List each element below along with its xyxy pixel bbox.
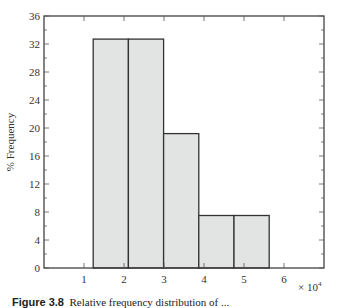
histogram-bar	[164, 134, 199, 268]
y-axis-label: % Frequency	[4, 112, 16, 171]
y-tick-label: 4	[35, 234, 41, 246]
x-tick-label: 6	[281, 273, 287, 285]
y-tick-label: 36	[29, 10, 41, 22]
y-tick-label: 20	[29, 122, 41, 134]
y-tick-label: 28	[29, 66, 41, 78]
histogram-chart: 04812162024283236123456% Frequency	[0, 0, 344, 308]
histogram-bar	[199, 216, 234, 269]
y-tick-label: 12	[29, 178, 40, 190]
y-tick-label: 32	[29, 38, 40, 50]
x-tick-label: 1	[81, 273, 87, 285]
x-tick-label: 4	[201, 273, 207, 285]
histogram-bar	[234, 216, 269, 269]
histogram-bar	[93, 39, 128, 268]
x-axis-multiplier: × 104	[298, 280, 321, 293]
y-tick-label: 16	[29, 150, 41, 162]
y-tick-label: 8	[35, 206, 41, 218]
figure-caption: Figure 3.8 Relative frequency distributi…	[12, 296, 229, 308]
x-tick-label: 2	[121, 273, 127, 285]
x-tick-label: 3	[161, 273, 167, 285]
x-tick-label: 5	[241, 273, 247, 285]
y-tick-label: 24	[29, 94, 41, 106]
histogram-bar	[128, 39, 163, 268]
y-tick-label: 0	[35, 262, 41, 274]
